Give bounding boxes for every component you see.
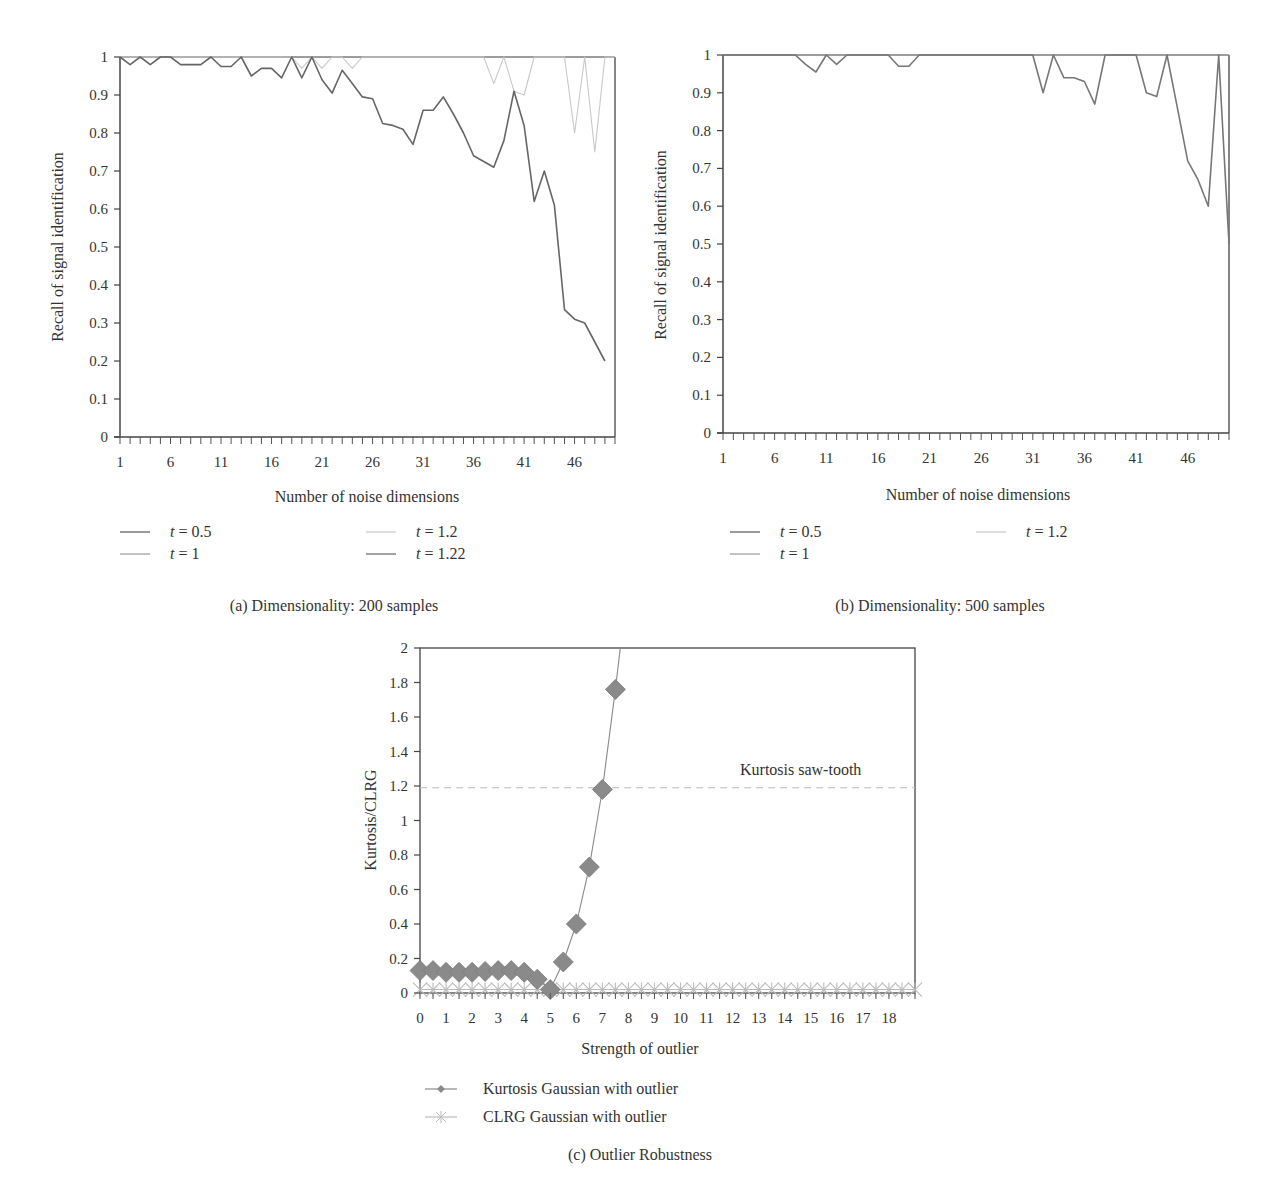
y-tick-label: 1 — [401, 813, 409, 829]
legend-label: t = 1.2 — [416, 523, 457, 540]
y-tick-label: 0 — [704, 425, 712, 441]
plot-frame — [420, 648, 915, 993]
x-tick-label: 0 — [416, 1010, 424, 1026]
diamond-marker-icon — [437, 1085, 445, 1093]
legend-label: t = 1.22 — [416, 545, 465, 562]
x-tick-label: 18 — [881, 1010, 896, 1026]
x-tick-label: 16 — [829, 1010, 845, 1026]
x-tick-label: 36 — [1077, 450, 1093, 466]
panel-b-x-axis-title: Number of noise dimensions — [886, 486, 1070, 503]
panel-b-legend: t = 0.5t = 1t = 1.2 — [730, 523, 1067, 562]
panel-b-y-axis-title: Recall of signal identification — [652, 150, 670, 340]
legend-label: t = 0.5 — [170, 523, 211, 540]
x-tick-label: 41 — [1129, 450, 1144, 466]
kurtosis-point-marker — [553, 952, 573, 972]
legend-label: t = 1 — [780, 545, 809, 562]
y-tick-label: 1.8 — [389, 675, 408, 691]
y-tick-label: 0.1 — [692, 387, 711, 403]
kurtosis-point-marker — [605, 679, 625, 699]
panel-b-axes — [717, 55, 1229, 433]
panel-a-chart: 00.10.20.30.40.50.60.70.80.9116111621263… — [49, 49, 615, 615]
x-tick-label: 26 — [365, 454, 381, 470]
y-tick-label: 0 — [101, 429, 109, 445]
x-tick-label: 21 — [922, 450, 937, 466]
legend-label: t = 1.2 — [1026, 523, 1067, 540]
y-tick-label: 0.8 — [692, 123, 711, 139]
y-tick-label: 1.2 — [389, 778, 408, 794]
x-tick-label: 1 — [719, 450, 727, 466]
y-tick-label: 0.2 — [389, 951, 408, 967]
x-tick-label: 10 — [673, 1010, 688, 1026]
y-tick-label: 1.4 — [389, 744, 408, 760]
x-tick-label: 7 — [599, 1010, 607, 1026]
panel-b-chart: 00.10.20.30.40.50.60.70.80.9116111621263… — [652, 47, 1229, 615]
x-tick-label: 16 — [870, 450, 886, 466]
x-tick-label: 14 — [777, 1010, 793, 1026]
x-tick-label: 12 — [725, 1010, 740, 1026]
panel-c-chart: Kurtosis saw-tooth 00.20.40.60.811.21.41… — [362, 579, 922, 1164]
series-line-t-1-2 — [120, 57, 615, 152]
x-tick-label: 46 — [567, 454, 583, 470]
x-tick-label: 31 — [416, 454, 431, 470]
x-tick-label: 5 — [547, 1010, 555, 1026]
y-tick-label: 2 — [401, 640, 409, 656]
x-tick-label: 15 — [803, 1010, 818, 1026]
x-tick-label: 11 — [214, 454, 228, 470]
x-tick-label: 13 — [751, 1010, 766, 1026]
x-tick-label: 21 — [315, 454, 330, 470]
y-tick-label: 0.4 — [89, 277, 108, 293]
y-tick-label: 0.7 — [89, 163, 108, 179]
panel-b-caption: (b) Dimensionality: 500 samples — [835, 597, 1044, 615]
y-tick-label: 0.7 — [692, 160, 711, 176]
series-line-t-1-22 — [120, 57, 605, 361]
kurtosis-point-marker — [579, 857, 599, 877]
y-tick-label: 0.6 — [692, 198, 711, 214]
kurtosis-point-marker — [592, 779, 612, 799]
kurtosis-sawtooth-label: Kurtosis saw-tooth — [740, 761, 861, 778]
y-tick-label: 0.6 — [389, 882, 408, 898]
y-tick-label: 0.1 — [89, 391, 108, 407]
y-tick-label: 1 — [101, 49, 109, 65]
x-tick-label: 31 — [1025, 450, 1040, 466]
x-tick-label: 11 — [699, 1010, 713, 1026]
y-tick-label: 0.9 — [692, 85, 711, 101]
y-tick-label: 0.2 — [692, 349, 711, 365]
y-tick-label: 0.8 — [89, 125, 108, 141]
x-tick-label: 16 — [264, 454, 280, 470]
y-tick-label: 0.3 — [692, 312, 711, 328]
x-tick-label: 26 — [974, 450, 990, 466]
figure: 00.10.20.30.40.50.60.70.80.9116111621263… — [0, 0, 1281, 1194]
x-tick-label: 4 — [520, 1010, 528, 1026]
x-tick-label: 6 — [573, 1010, 581, 1026]
panel-a-legend: t = 0.5t = 1t = 1.2t = 1.22 — [120, 523, 465, 562]
legend-label: t = 1 — [170, 545, 199, 562]
panel-c-caption: (c) Outlier Robustness — [568, 1146, 712, 1164]
panel-c-legend: Kurtosis Gaussian with outlierCLRG Gauss… — [425, 1080, 679, 1125]
x-tick-label: 6 — [167, 454, 175, 470]
x-tick-label: 1 — [116, 454, 124, 470]
panel-a-axes — [114, 57, 615, 437]
x-tick-label: 1 — [442, 1010, 450, 1026]
y-tick-label: 0.5 — [692, 236, 711, 252]
y-tick-label: 0.4 — [692, 274, 711, 290]
x-tick-label: 9 — [651, 1010, 659, 1026]
y-tick-label: 0.5 — [89, 239, 108, 255]
legend-label: Kurtosis Gaussian with outlier — [483, 1080, 679, 1097]
y-tick-label: 0.2 — [89, 353, 108, 369]
x-tick-label: 41 — [517, 454, 532, 470]
y-tick-label: 0.3 — [89, 315, 108, 331]
series-line-t-1-2 — [723, 55, 1229, 244]
legend-label: t = 0.5 — [780, 523, 821, 540]
y-tick-label: 1 — [704, 47, 712, 63]
y-tick-label: 1.6 — [389, 709, 408, 725]
y-tick-label: 0.6 — [89, 201, 108, 217]
panel-a-y-axis-title: Recall of signal identification — [49, 152, 67, 342]
kurtosis-point-marker — [566, 914, 586, 934]
x-tick-label: 3 — [494, 1010, 502, 1026]
x-tick-label: 6 — [771, 450, 779, 466]
x-tick-label: 46 — [1180, 450, 1196, 466]
panel-c-axes — [420, 648, 915, 993]
x-tick-label: 11 — [819, 450, 833, 466]
x-tick-label: 8 — [625, 1010, 633, 1026]
panel-c-y-axis-title: Kurtosis/CLRG — [362, 769, 379, 871]
